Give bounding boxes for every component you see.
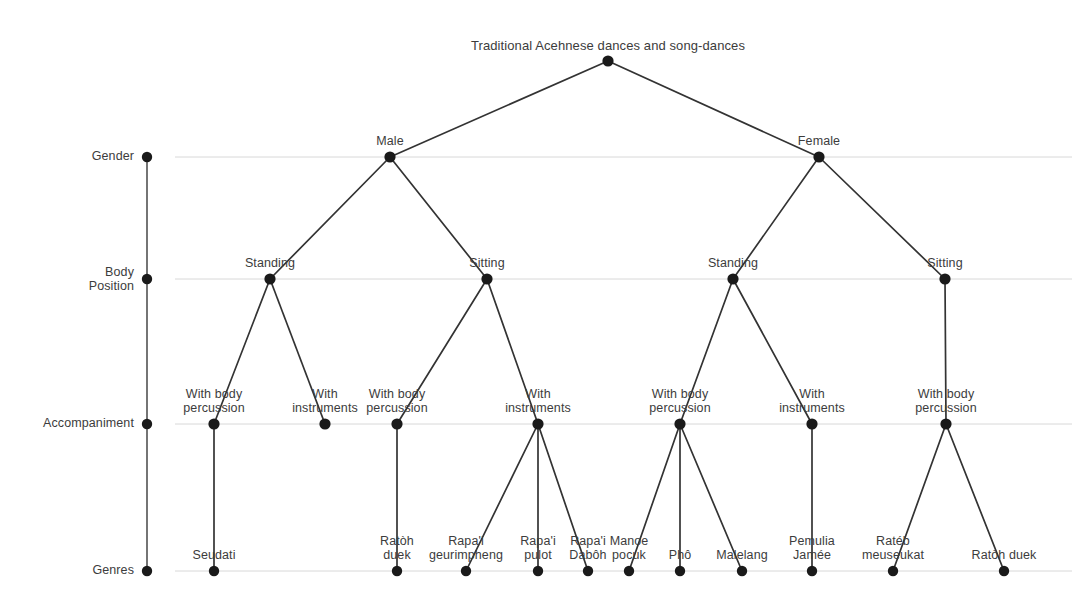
node-label-g_rapai_daboh: Rapa'i Dabôh	[569, 535, 606, 562]
node-label-g_seudati: Seudati	[192, 549, 235, 563]
dendrogram-figure: GenderBody PositionAccompanimentGenresTr…	[0, 0, 1082, 605]
tree-node-ms_instr[interactable]	[319, 418, 330, 429]
tree-node-fs_instr[interactable]	[806, 418, 817, 429]
node-label-g_malelang: Malelang	[716, 549, 768, 563]
tree-node-g_rapai_geurimpheng[interactable]	[461, 566, 471, 576]
node-label-fs_body: With body percussion	[649, 388, 710, 415]
node-label-msit_instr: With instruments	[505, 388, 571, 415]
tree-node-g_rateb_meuseukat[interactable]	[888, 566, 898, 576]
tree-node-g_pemulia_jamee[interactable]	[807, 566, 817, 576]
tree-node-g_rapai_daboh[interactable]	[583, 566, 593, 576]
node-label-msit_body: With body percussion	[366, 388, 427, 415]
level-label-gender: Gender	[92, 150, 134, 164]
tree-node-g_ratoh_duek_1[interactable]	[392, 566, 402, 576]
node-label-g_rapai_geurimpheng: Rapa'i geurimpheng	[429, 535, 503, 562]
node-label-fs_instr: With instruments	[779, 388, 845, 415]
level-axis-node-accompaniment[interactable]	[142, 419, 152, 429]
tree-link	[608, 61, 819, 157]
node-label-male_standing: Standing	[245, 257, 295, 271]
node-label-g_rateb_meuseukat: Ratéb meuseukat	[862, 535, 924, 562]
tree-node-female_sitting[interactable]	[939, 273, 950, 284]
node-label-female_sitting: Sitting	[927, 257, 962, 271]
tree-link	[819, 157, 945, 279]
node-label-g_manoe_pocuk: Manoe pocuk	[610, 535, 649, 562]
node-label-female: Female	[798, 135, 840, 149]
level-label-accompaniment: Accompaniment	[43, 417, 134, 431]
tree-node-fsit_body[interactable]	[940, 418, 951, 429]
tree-node-ms_body[interactable]	[208, 418, 219, 429]
tree-link	[390, 61, 608, 157]
tree-node-g_malelang[interactable]	[737, 566, 747, 576]
level-axis-node-gender[interactable]	[142, 152, 152, 162]
tree-canvas	[0, 0, 1082, 605]
tree-node-g_pho[interactable]	[675, 566, 685, 576]
tree-node-msit_instr[interactable]	[532, 418, 543, 429]
tree-node-female_standing[interactable]	[727, 273, 738, 284]
level-axis-node-body_position[interactable]	[142, 274, 152, 284]
tree-node-g_ratoh_duek_2[interactable]	[999, 566, 1009, 576]
tree-node-fs_body[interactable]	[674, 418, 685, 429]
node-label-ms_instr: With instruments	[292, 388, 358, 415]
tree-node-g_manoe_pocuk[interactable]	[624, 566, 634, 576]
tree-node-root[interactable]	[602, 55, 613, 66]
node-label-g_rapai_pulot: Rapa'i pulot	[520, 535, 556, 562]
node-label-male_sitting: Sitting	[469, 257, 504, 271]
level-axis-node-genres[interactable]	[142, 566, 152, 576]
node-label-g_ratoh_duek_1: Ratòh duek	[380, 535, 414, 562]
tree-node-g_seudati[interactable]	[209, 566, 219, 576]
node-label-female_standing: Standing	[708, 257, 758, 271]
tree-node-male_standing[interactable]	[264, 273, 275, 284]
tree-node-msit_body[interactable]	[391, 418, 402, 429]
node-label-fsit_body: With body percussion	[915, 388, 976, 415]
node-label-ms_body: With body percussion	[183, 388, 244, 415]
node-label-g_pho: Phô	[669, 549, 692, 563]
tree-node-g_rapai_pulot[interactable]	[533, 566, 543, 576]
node-label-g_pemulia_jamee: Pemulia Jamée	[789, 535, 835, 562]
tree-node-male[interactable]	[384, 151, 395, 162]
tree-node-male_sitting[interactable]	[481, 273, 492, 284]
node-label-root: Traditional Acehnese dances and song-dan…	[471, 39, 745, 53]
node-label-g_ratoh_duek_2: Ratòh duek	[972, 549, 1037, 563]
level-label-body_position: Body Position	[89, 266, 134, 293]
node-label-male: Male	[376, 135, 404, 149]
tree-node-female[interactable]	[813, 151, 824, 162]
level-label-genres: Genres	[92, 564, 134, 578]
